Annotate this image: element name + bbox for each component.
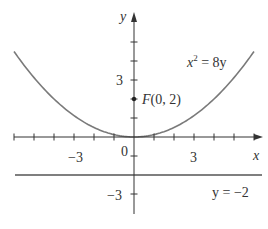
origin-label: 0 — [121, 144, 128, 159]
x-axis-arrow-icon — [254, 134, 263, 140]
directrix-equation-label: y = −2 — [212, 185, 249, 200]
focus-point — [132, 97, 136, 101]
y-axis-arrow-icon — [131, 12, 137, 22]
y-tick-label-pos3: 3 — [116, 73, 123, 88]
parabola-diagram: y x 0 −3 3 3 −3 F(0, 2) x2 = 8y y = −2 — [0, 0, 268, 229]
y-tick-label-neg3: −3 — [107, 188, 122, 203]
parabola-equation-label: x2 = 8y — [186, 53, 227, 70]
x-tick-label-pos3: 3 — [190, 150, 197, 165]
x-tick-label-neg3: −3 — [68, 150, 83, 165]
y-axis — [131, 12, 138, 214]
y-axis-label: y — [118, 9, 127, 24]
x-axis-label: x — [252, 148, 260, 163]
focus-label-coords: (0, 2) — [151, 92, 182, 108]
focus-label: F(0, 2) — [141, 92, 181, 108]
x-axis — [14, 134, 263, 141]
